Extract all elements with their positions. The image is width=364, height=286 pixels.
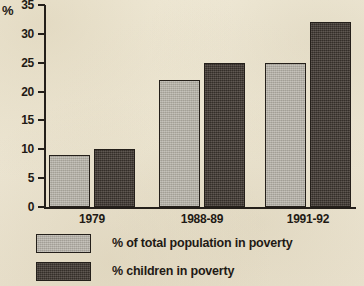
y-axis-tick-label: 30 (8, 28, 34, 40)
x-axis-label-1991-92: 1991-92 (265, 212, 351, 226)
dark-grey-swatch (36, 262, 91, 281)
bar-1979-series2 (94, 149, 135, 207)
y-axis-tick (38, 119, 45, 121)
y-axis-tick-label: 10 (8, 143, 34, 155)
y-axis-tick-label: 20 (8, 86, 34, 98)
light-grey-swatch (36, 234, 91, 253)
bar-1991-92-series1 (265, 63, 306, 207)
y-axis-tick-label: 5 (8, 172, 34, 184)
bar-1991-92-series2 (310, 22, 351, 207)
y-axis-tick (38, 33, 45, 35)
bar-1988-89-series2 (204, 63, 245, 207)
y-axis-tick-label: 25 (8, 57, 34, 69)
legend-item: % of total population in poverty (36, 231, 292, 255)
x-axis-label-1988-89: 1988-89 (159, 212, 245, 226)
x-axis-label-1979: 1979 (49, 212, 135, 226)
x-axis-line (44, 207, 356, 209)
plot-area: % 05101520253035 19791988-891991-92 (0, 0, 364, 215)
y-axis-tick (38, 4, 45, 6)
y-axis-tick-label: 0 (8, 201, 34, 213)
y-axis-tick (38, 91, 45, 93)
y-axis-tick (38, 62, 45, 64)
y-axis-tick-label: 15 (8, 114, 34, 126)
legend-label: % children in poverty (112, 264, 234, 278)
bar-1979-series1 (49, 155, 90, 207)
chart-legend: % of total population in poverty% childr… (36, 231, 292, 286)
chart-figure: % 05101520253035 19791988-891991-92 % of… (0, 0, 364, 286)
y-axis-tick-label: 35 (8, 0, 34, 11)
legend-item: % children in poverty (36, 259, 292, 283)
legend-label: % of total population in poverty (112, 236, 292, 250)
y-axis-tick (38, 148, 45, 150)
y-axis-tick (38, 206, 45, 208)
bar-1988-89-series1 (159, 80, 200, 207)
y-axis-tick (38, 177, 45, 179)
